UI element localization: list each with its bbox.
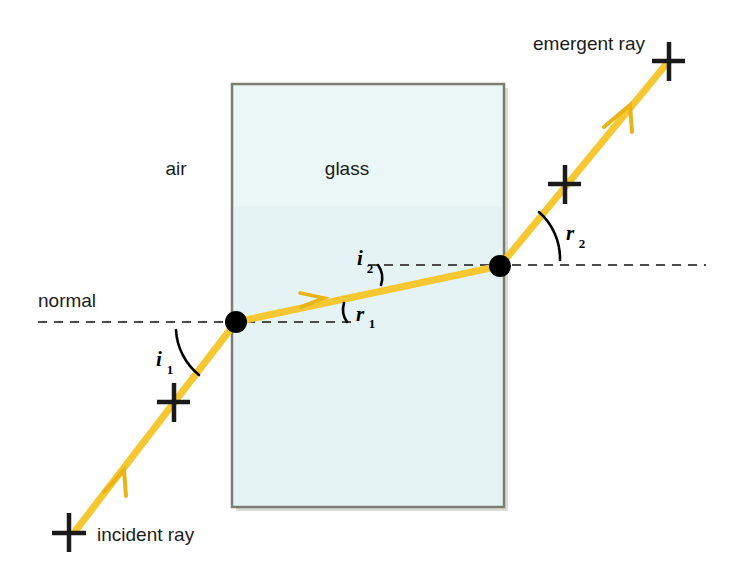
angle-label-r1-symbol: r xyxy=(356,302,365,326)
entry-point-marker xyxy=(225,311,247,333)
exit-point-marker xyxy=(489,255,511,277)
label-normal: normal xyxy=(38,290,96,311)
refraction-diagram: air glass normal incident ray emergent r… xyxy=(0,0,733,577)
angle-label-i1-symbol: i xyxy=(156,347,162,371)
angle-label-i2-subscript: 2 xyxy=(367,261,374,276)
angle-label-r1-subscript: 1 xyxy=(369,316,376,331)
glass-sheen xyxy=(234,86,502,206)
angle-label-i1-subscript: 1 xyxy=(167,362,174,377)
label-incident-ray: incident ray xyxy=(97,524,195,545)
label-emergent-ray: emergent ray xyxy=(533,33,645,54)
angle-label-i2-symbol: i xyxy=(357,246,363,270)
label-air: air xyxy=(165,158,187,179)
label-glass: glass xyxy=(325,158,369,179)
angle-label-r2-symbol: r xyxy=(566,221,575,245)
angle-label-r2-subscript: 2 xyxy=(579,236,586,251)
